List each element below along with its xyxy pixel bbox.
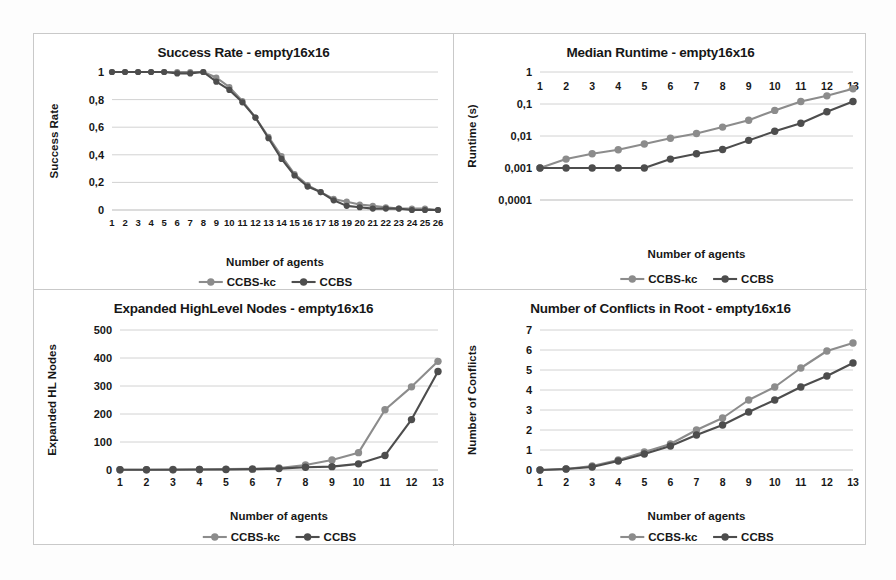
svg-text:4: 4 bbox=[615, 476, 621, 488]
svg-text:Expanded HL Nodes: Expanded HL Nodes bbox=[46, 344, 58, 456]
chart-canvas-number-of-conflicts: 01234567Number of Conflicts1234567891011… bbox=[454, 290, 867, 546]
svg-text:16: 16 bbox=[302, 217, 313, 228]
panel-median-runtime: Median Runtime - empty16x16 0,00010,0010… bbox=[453, 34, 867, 289]
svg-text:2: 2 bbox=[563, 476, 569, 488]
chart-canvas-expanded-highlevel-nodes: 0100200300400500Expanded HL Nodes1234567… bbox=[34, 290, 452, 546]
svg-text:0,01: 0,01 bbox=[511, 130, 532, 142]
svg-text:9: 9 bbox=[214, 217, 219, 228]
svg-text:Number of agents: Number of agents bbox=[648, 248, 746, 260]
svg-text:13: 13 bbox=[263, 217, 274, 228]
panel-expanded-highlevel-nodes: Expanded HighLevel Nodes - empty16x16 01… bbox=[34, 289, 453, 546]
chart-canvas-success-rate: 00,20,40,60,81Success Rate12345678910111… bbox=[34, 34, 452, 288]
svg-text:9: 9 bbox=[746, 80, 752, 92]
svg-text:CCBS-kc: CCBS-kc bbox=[231, 531, 281, 543]
svg-text:0,6: 0,6 bbox=[89, 121, 104, 133]
svg-text:22: 22 bbox=[381, 217, 392, 228]
svg-text:5: 5 bbox=[223, 476, 229, 488]
svg-text:Success Rate: Success Rate bbox=[48, 104, 60, 179]
svg-text:2: 2 bbox=[563, 80, 569, 92]
svg-text:3: 3 bbox=[526, 404, 532, 416]
svg-text:10: 10 bbox=[769, 476, 781, 488]
svg-text:8: 8 bbox=[201, 217, 206, 228]
svg-text:9: 9 bbox=[329, 476, 335, 488]
svg-text:18: 18 bbox=[328, 217, 339, 228]
svg-text:1: 1 bbox=[537, 476, 543, 488]
svg-text:CCBS-kc: CCBS-kc bbox=[648, 273, 698, 285]
svg-text:300: 300 bbox=[94, 380, 112, 392]
svg-text:2: 2 bbox=[144, 476, 150, 488]
svg-text:0: 0 bbox=[98, 204, 104, 216]
svg-text:7: 7 bbox=[694, 476, 700, 488]
svg-text:4: 4 bbox=[526, 384, 533, 396]
svg-text:15: 15 bbox=[289, 217, 300, 228]
svg-text:200: 200 bbox=[94, 408, 112, 420]
svg-text:3: 3 bbox=[589, 80, 595, 92]
svg-text:CCBS-kc: CCBS-kc bbox=[227, 276, 277, 288]
svg-text:Number of Conflicts: Number of Conflicts bbox=[466, 345, 478, 455]
svg-text:5: 5 bbox=[641, 80, 647, 92]
svg-text:6: 6 bbox=[667, 476, 673, 488]
svg-text:3: 3 bbox=[589, 476, 595, 488]
panel-success-rate: Success Rate - empty16x16 00,20,40,60,81… bbox=[34, 34, 453, 289]
svg-text:5: 5 bbox=[526, 364, 532, 376]
svg-text:0: 0 bbox=[526, 464, 532, 476]
svg-text:3: 3 bbox=[135, 217, 140, 228]
svg-text:0,001: 0,001 bbox=[504, 162, 532, 174]
svg-text:12: 12 bbox=[821, 80, 833, 92]
chart-canvas-median-runtime: 0,00010,0010,010,11Runtime (s)1234567891… bbox=[454, 34, 867, 288]
svg-text:14: 14 bbox=[276, 217, 287, 228]
svg-text:12: 12 bbox=[821, 476, 833, 488]
svg-text:13: 13 bbox=[847, 476, 859, 488]
svg-text:1: 1 bbox=[98, 66, 104, 78]
svg-text:4: 4 bbox=[615, 80, 621, 92]
svg-text:1: 1 bbox=[537, 80, 543, 92]
svg-text:0: 0 bbox=[106, 464, 112, 476]
svg-text:24: 24 bbox=[407, 217, 418, 228]
svg-text:0,4: 0,4 bbox=[89, 149, 105, 161]
svg-text:4: 4 bbox=[197, 476, 203, 488]
figure-grid: Success Rate - empty16x16 00,20,40,60,81… bbox=[33, 33, 866, 545]
svg-text:0,1: 0,1 bbox=[517, 98, 532, 110]
svg-text:5: 5 bbox=[641, 476, 647, 488]
svg-text:400: 400 bbox=[94, 352, 112, 364]
svg-text:25: 25 bbox=[420, 217, 431, 228]
svg-text:7: 7 bbox=[694, 80, 700, 92]
svg-text:500: 500 bbox=[94, 324, 112, 336]
svg-text:12: 12 bbox=[406, 476, 418, 488]
svg-text:0,0001: 0,0001 bbox=[498, 194, 532, 206]
svg-text:CCBS: CCBS bbox=[741, 273, 774, 285]
svg-text:CCBS-kc: CCBS-kc bbox=[648, 531, 698, 543]
svg-text:Number of agents: Number of agents bbox=[226, 256, 324, 268]
panel-number-of-conflicts: Number of Conflicts in Root - empty16x16… bbox=[453, 289, 867, 546]
svg-text:CCBS: CCBS bbox=[320, 276, 353, 288]
svg-text:2: 2 bbox=[122, 217, 127, 228]
svg-text:Number of agents: Number of agents bbox=[230, 510, 328, 522]
svg-text:6: 6 bbox=[526, 344, 532, 356]
svg-text:7: 7 bbox=[526, 324, 532, 336]
svg-text:10: 10 bbox=[353, 476, 365, 488]
svg-text:7: 7 bbox=[188, 217, 193, 228]
svg-text:26: 26 bbox=[433, 217, 444, 228]
svg-text:12: 12 bbox=[250, 217, 261, 228]
svg-text:11: 11 bbox=[795, 476, 806, 488]
svg-text:CCBS: CCBS bbox=[324, 531, 357, 543]
svg-text:3: 3 bbox=[170, 476, 176, 488]
svg-text:11: 11 bbox=[795, 80, 806, 92]
svg-text:1: 1 bbox=[117, 476, 123, 488]
svg-text:8: 8 bbox=[720, 476, 726, 488]
svg-text:11: 11 bbox=[379, 476, 390, 488]
svg-text:100: 100 bbox=[94, 436, 112, 448]
svg-text:7: 7 bbox=[276, 476, 282, 488]
svg-text:Runtime (s): Runtime (s) bbox=[466, 104, 478, 167]
svg-text:19: 19 bbox=[341, 217, 352, 228]
svg-text:CCBS: CCBS bbox=[741, 531, 774, 543]
svg-text:0,8: 0,8 bbox=[89, 94, 104, 106]
svg-text:23: 23 bbox=[394, 217, 405, 228]
svg-text:5: 5 bbox=[162, 217, 168, 228]
svg-text:6: 6 bbox=[667, 80, 673, 92]
svg-text:8: 8 bbox=[720, 80, 726, 92]
svg-text:Number of agents: Number of agents bbox=[648, 510, 746, 522]
svg-text:10: 10 bbox=[769, 80, 781, 92]
svg-text:13: 13 bbox=[432, 476, 444, 488]
svg-text:6: 6 bbox=[175, 217, 180, 228]
